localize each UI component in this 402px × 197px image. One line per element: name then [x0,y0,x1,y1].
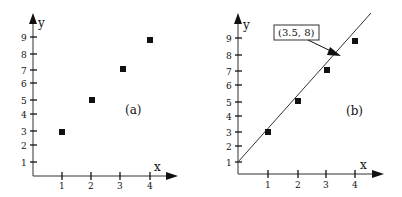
svg-text:1: 1 [265,180,271,190]
svg-text:3: 3 [323,180,329,190]
panel-a: y x 1 2 3 4 5 6 7 8 9 [21,13,178,191]
y-axis-label: y [242,18,250,32]
svg-text:6: 6 [21,79,27,89]
annotation-text: (3.5, 8) [278,27,315,38]
data-point [352,38,358,44]
svg-text:4: 4 [21,110,27,120]
svg-text:1: 1 [21,158,27,168]
panel-b: y x 1 2 3 4 5 6 7 8 9 [226,13,384,190]
svg-text:7: 7 [226,67,232,77]
svg-text:5: 5 [21,96,27,106]
svg-text:2: 2 [88,181,94,191]
svg-text:2: 2 [226,142,232,152]
svg-text:5: 5 [226,98,232,108]
svg-text:4: 4 [226,112,232,122]
svg-text:2: 2 [21,141,27,151]
svg-text:3: 3 [21,127,27,137]
x-axis-label: x [154,160,161,174]
y-axis-arrow-icon [29,13,37,24]
data-points [59,37,153,135]
panel-label-a: (a) [125,103,142,117]
data-point [324,67,330,73]
data-point [265,129,271,135]
data-point [59,129,65,135]
svg-text:9: 9 [21,33,27,43]
data-point [147,37,153,43]
data-point [120,66,126,72]
x-axis-arrow-icon [166,172,178,180]
data-point [89,97,95,103]
svg-text:2: 2 [295,180,301,190]
panel-label-b: (b) [346,104,363,118]
svg-text:3: 3 [117,181,123,191]
x-tick-labels: 1 2 3 4 [59,181,153,191]
data-point [295,98,301,104]
svg-text:7: 7 [21,66,27,76]
data-points [265,38,358,135]
svg-text:9: 9 [226,34,232,44]
svg-text:1: 1 [226,158,232,168]
y-axis-label: y [37,16,45,30]
svg-text:8: 8 [21,50,27,60]
svg-text:3: 3 [226,128,232,138]
svg-text:6: 6 [226,81,232,91]
y-tick-labels: 1 2 3 4 5 6 7 8 9 [226,34,232,168]
svg-text:4: 4 [352,180,358,190]
figure: y x 1 2 3 4 5 6 7 8 9 [0,0,402,197]
x-tick-labels: 1 2 3 4 [265,180,358,190]
x-axis-label: x [360,158,367,172]
x-axis-arrow-icon [372,170,384,178]
svg-text:8: 8 [226,51,232,61]
annotation: (3.5, 8) [274,25,341,56]
y-axis-arrow-icon [234,13,242,24]
svg-text:1: 1 [59,181,65,191]
svg-text:4: 4 [147,181,153,191]
y-tick-labels: 1 2 3 4 5 6 7 8 9 [21,33,27,168]
